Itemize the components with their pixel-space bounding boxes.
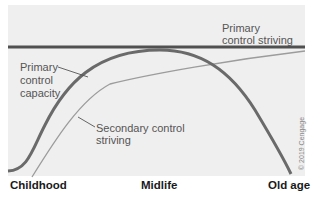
- secondary-label-line1: Secondary control: [96, 122, 185, 134]
- secondary-label: Secondary control striving: [96, 122, 185, 146]
- axis-label-childhood: Childhood: [10, 179, 67, 191]
- secondary-control-striving-line: [32, 51, 305, 177]
- secondary-leader-line: [78, 117, 95, 127]
- capacity-leader-line: [58, 67, 88, 77]
- capacity-label: Primary control capacity: [20, 61, 60, 100]
- striving-label: Primary control striving: [222, 22, 293, 46]
- striving-label-line1: Primary: [222, 22, 293, 34]
- capacity-label-line3: capacity: [20, 87, 60, 100]
- axis-label-old-age: Old age: [268, 179, 310, 191]
- secondary-label-line2: striving: [96, 134, 185, 146]
- striving-label-line2: control striving: [222, 34, 293, 46]
- capacity-label-line2: control: [20, 74, 60, 87]
- capacity-label-line1: Primary: [20, 61, 60, 74]
- axis-label-midlife: Midlife: [141, 179, 177, 191]
- copyright-notice: © 2019 Cengage: [298, 117, 305, 170]
